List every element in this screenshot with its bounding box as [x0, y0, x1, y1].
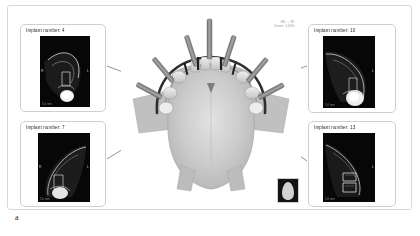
implant-post-central — [207, 19, 212, 59]
cbct-slice-7 — [38, 133, 90, 202]
radiograph-implant-13[interactable]: L 5.0 mm — [323, 133, 375, 202]
radiograph-scale-7: 5.0 mm — [40, 197, 50, 201]
radiograph-implant-10[interactable]: L 5.0 mm — [323, 36, 375, 108]
radiograph-marker-left-7: L — [87, 165, 89, 169]
callout-panel-implant-7[interactable]: Implant number: 7 R L 5.0 mm — [20, 121, 106, 207]
radiograph-implant-4[interactable]: R L 5.0 mm — [40, 36, 90, 107]
figure-panel-a: WL: - W:Zoom: 140% Implant number: 4 R L… — [0, 0, 420, 236]
callout-panel-implant-13[interactable]: Implant number: 13 L 5.0 mm — [308, 121, 396, 207]
orientation-skull-icon — [278, 179, 298, 202]
radiograph-scale-10: 5.0 mm — [325, 103, 335, 107]
maxilla-3d-model[interactable] — [121, 13, 301, 203]
panel-title-implant-4: Implant number: 4 — [26, 28, 65, 33]
viewport-zoom-level: Zoom: 140% — [274, 24, 295, 28]
cbct-slice-4 — [40, 36, 90, 107]
orientation-thumbnail[interactable] — [277, 178, 299, 203]
model-viewport[interactable]: WL: - W:Zoom: 140% — [121, 13, 301, 203]
radiograph-marker-right-7: R — [39, 165, 42, 169]
radiograph-scale-4: 5.0 mm — [42, 102, 52, 106]
viewport-metadata: WL: - W:Zoom: 140% — [274, 20, 295, 29]
callout-panel-implant-10[interactable]: Implant number: 10 L 5.0 mm — [308, 24, 396, 113]
panel-title-implant-7: Implant number: 7 — [26, 125, 65, 130]
cbct-slice-13 — [323, 133, 375, 202]
figure-letter-label: a — [15, 213, 19, 222]
radiograph-scale-13: 5.0 mm — [325, 197, 335, 201]
radiograph-marker-right-4: R — [41, 69, 44, 73]
radiograph-marker-left-4: L — [87, 69, 89, 73]
implant-post-left-mid — [152, 57, 175, 83]
panel-title-implant-13: Implant number: 13 — [314, 125, 355, 130]
radiograph-marker-left-13: L — [372, 165, 374, 169]
cbct-slice-10 — [323, 36, 375, 108]
callout-panel-implant-4[interactable]: Implant number: 4 R L 5.0 mm — [20, 24, 106, 112]
radiograph-marker-left-10: L — [372, 69, 374, 73]
panel-title-implant-10: Implant number: 10 — [314, 28, 355, 33]
radiograph-implant-7[interactable]: R L 5.0 mm — [38, 133, 90, 202]
